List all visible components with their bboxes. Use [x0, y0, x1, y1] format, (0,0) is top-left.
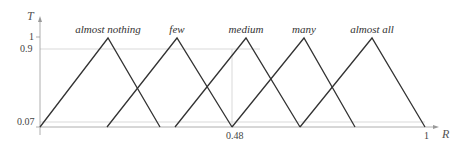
series-label-almost-nothing: almost nothing [75, 23, 141, 35]
x-axis-arrow-icon [433, 125, 439, 129]
membership-function-chart: T R 1 0.9 0.07 0.48 1 almost nothing few… [0, 0, 469, 149]
y-tick-label-0.07: 0.07 [17, 116, 35, 127]
x-tick-label-1: 1 [424, 130, 429, 141]
x-tick-label-0.48: 0.48 [226, 130, 244, 141]
series-label-many: many [292, 23, 316, 35]
series-label-medium: medium [229, 23, 264, 35]
y-tick-label-0.9: 0.9 [20, 43, 33, 54]
y-tick-label-1: 1 [29, 31, 34, 42]
series-medium [175, 38, 300, 127]
y-axis-label: T [27, 9, 35, 23]
series-label-almost-all: almost all [350, 23, 394, 35]
series-label-few: few [169, 23, 185, 35]
y-axis-arrow-icon [38, 16, 42, 22]
series-few [107, 38, 232, 127]
x-axis-label: R [441, 127, 450, 141]
series-almost-all [300, 38, 425, 127]
